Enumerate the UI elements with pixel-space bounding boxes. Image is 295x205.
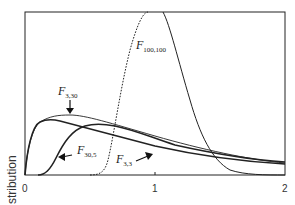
x-tick-label-2: 2	[282, 183, 288, 194]
curve-f-100-100-right	[163, 12, 285, 175]
f-distribution-chart: F distribution 0 1 2 F3,30 F30,5 F3,3 F1…	[0, 0, 295, 205]
label-f-100-100: F100,100	[136, 38, 166, 54]
y-axis-label: F distribution	[4, 130, 20, 205]
x-tick-label-1: 1	[152, 183, 158, 194]
curve-f-30-5	[38, 124, 285, 175]
x-tick-label-0: 0	[22, 183, 28, 194]
plot-area	[0, 0, 295, 205]
label-f-3-30: F3,30	[58, 84, 78, 100]
curve-f-100-100	[90, 12, 148, 175]
curve-f-3-3	[25, 120, 285, 175]
arrow-f-3-3	[136, 152, 153, 161]
label-f-3-30-sub: 3,30	[65, 92, 77, 100]
arrow-f-3-30	[66, 100, 74, 114]
y-axis-label-text: distribution	[5, 155, 19, 205]
label-f-3-3: F3,3	[116, 152, 132, 168]
label-f-30-5: F30,5	[77, 143, 97, 159]
arrow-f-30-5	[58, 153, 72, 161]
label-f-100-100-sub: 100,100	[143, 46, 166, 54]
label-f-3-3-sub: 3,3	[123, 160, 132, 168]
label-f-30-5-sub: 30,5	[84, 151, 96, 159]
